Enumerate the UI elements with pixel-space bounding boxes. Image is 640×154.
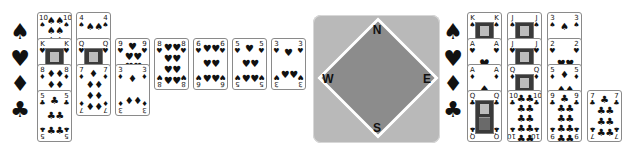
card-8-of-hearts[interactable]: 8 ♥8 ♥8 ♥8 ♥♥♥♥♥♥♥♥♥	[154, 38, 189, 90]
card-index: 7 ♣	[589, 125, 596, 139]
card-index: 9 ♣	[573, 125, 580, 139]
diamond-icon: ♦	[8, 72, 32, 96]
card-index: Q ♦	[533, 67, 540, 81]
card-index: 8 ♦	[63, 67, 70, 81]
card-5-of-hearts[interactable]: 5 ♥5 ♥5 ♥5 ♥♥♥♥♥♥	[232, 38, 267, 90]
face-card-image	[475, 100, 494, 134]
spade-icon: ♠	[441, 20, 465, 44]
card-index: 9 ♥	[141, 41, 148, 55]
card-index: 7 ♦	[78, 67, 85, 81]
card-index: 9 ♣	[549, 93, 556, 107]
card-pips: ♥♥♥♥♥	[241, 42, 258, 86]
card-index: 6 ♥	[219, 73, 226, 87]
club-icon: ♣	[441, 98, 465, 122]
compass-north-label: N	[370, 23, 384, 37]
card-index: 3 ♥	[273, 41, 280, 55]
card-index: 5 ♥	[234, 73, 241, 87]
card-index: 7 ♣	[589, 93, 596, 107]
card-pips: ♥♥♥♥♥♥♥♥	[163, 42, 180, 86]
card-5-of-clubs[interactable]: 5 ♣5 ♣5 ♣5 ♣♣♣♣♣♣	[37, 90, 72, 142]
card-index: 7 ♦	[102, 99, 109, 113]
card-index: 4 ♠	[78, 15, 85, 29]
card-index: 8 ♥	[180, 41, 187, 55]
diamond-icon: ♦	[441, 72, 465, 96]
card-index: 5 ♥	[234, 41, 241, 55]
card-index: 10 ♣	[509, 93, 516, 107]
card-index: 10 ♣	[509, 125, 516, 139]
card-pips: ♥♥♥♥♥♥	[202, 42, 219, 86]
card-index: 5 ♦	[573, 67, 580, 81]
card-Q-of-clubs[interactable]: Q ♣Q ♣Q ♣Q ♣	[467, 90, 502, 142]
card-index: 8 ♥	[156, 73, 163, 87]
spade-icon: ♠	[8, 20, 32, 44]
card-index: 3 ♠	[573, 15, 580, 29]
card-10-of-clubs[interactable]: 10 ♣10 ♣10 ♣10 ♣♣♣♣♣♣♣♣♣♣♣	[507, 90, 542, 142]
compass-east-label: E	[420, 72, 434, 86]
card-index: 2 ♥	[573, 41, 580, 55]
card-pips: ♦♦♦	[124, 68, 141, 112]
card-pips: ♥♥♥	[280, 42, 297, 86]
card-index: 7 ♦	[78, 99, 85, 113]
card-index: 3 ♠	[549, 15, 556, 29]
card-index: 7 ♣	[613, 125, 620, 139]
card-6-of-hearts[interactable]: 6 ♥6 ♥6 ♥6 ♥♥♥♥♥♥♥	[193, 38, 228, 90]
card-index: 9 ♣	[573, 93, 580, 107]
card-pips: ♣♣♣♣♣♣♣	[596, 94, 613, 138]
card-index: 3 ♦	[141, 67, 148, 81]
card-index: 4 ♠	[102, 15, 109, 29]
card-3-of-hearts[interactable]: 3 ♥3 ♥3 ♥3 ♥♥♥♥	[271, 38, 306, 90]
heart-icon: ♥	[441, 47, 465, 71]
card-pips: ♣♣♣♣♣	[46, 94, 63, 138]
card-index: 3 ♦	[141, 99, 148, 113]
card-index: 9 ♣	[549, 125, 556, 139]
card-index: 3 ♦	[117, 67, 124, 81]
card-index: K ♠	[493, 15, 500, 29]
card-index: A ♥	[469, 41, 476, 55]
card-index: 5 ♥	[258, 73, 265, 87]
card-index: 9 ♥	[117, 41, 124, 55]
card-index: 8 ♦	[39, 67, 46, 81]
card-index: K ♥	[63, 41, 70, 55]
card-index: 3 ♥	[297, 73, 304, 87]
card-7-of-diamonds[interactable]: 7 ♦7 ♦7 ♦7 ♦♦♦♦♦♦♦♦	[76, 64, 111, 116]
card-index: 6 ♥	[195, 73, 202, 87]
card-9-of-clubs[interactable]: 9 ♣9 ♣9 ♣9 ♣♣♣♣♣♣♣♣♣♣	[547, 90, 582, 142]
heart-icon: ♥	[8, 47, 32, 71]
card-index: 5 ♣	[63, 125, 70, 139]
card-index: Q ♥	[102, 41, 109, 55]
card-index: J ♠	[533, 15, 540, 29]
card-index: 8 ♥	[156, 41, 163, 55]
card-index: 6 ♥	[195, 41, 202, 55]
card-index: 2 ♥	[549, 41, 556, 55]
card-pips: ♦♦♦♦♦♦♦	[85, 68, 102, 112]
card-index: Q ♣	[493, 125, 500, 139]
card-index: 3 ♥	[273, 73, 280, 87]
card-index: 7 ♦	[102, 67, 109, 81]
card-index: 7 ♣	[613, 93, 620, 107]
card-index: 3 ♥	[297, 41, 304, 55]
card-index: A ♦	[469, 67, 476, 81]
card-index: 8 ♥	[180, 73, 187, 87]
card-index: 10 ♠	[39, 15, 46, 29]
card-index: 10 ♣	[533, 125, 540, 139]
card-3-of-diamonds[interactable]: 3 ♦3 ♦3 ♦3 ♦♦♦♦	[115, 64, 150, 116]
card-index: 5 ♣	[63, 93, 70, 107]
card-index: 5 ♣	[39, 93, 46, 107]
card-index: 10 ♣	[533, 93, 540, 107]
card-index: 3 ♦	[117, 99, 124, 113]
card-index: 6 ♥	[219, 41, 226, 55]
card-pips: ♣♣♣♣♣♣♣♣♣	[556, 94, 573, 138]
card-index: 5 ♦	[549, 67, 556, 81]
card-7-of-clubs[interactable]: 7 ♣7 ♣7 ♣7 ♣♣♣♣♣♣♣♣	[587, 90, 622, 142]
card-pips: ♣♣♣♣♣♣♣♣♣♣	[516, 94, 533, 138]
card-index: A ♥	[493, 41, 500, 55]
compass-south-label: S	[370, 121, 384, 135]
card-index: Q ♣	[493, 93, 500, 107]
club-icon: ♣	[8, 98, 32, 122]
compass-west-label: W	[321, 72, 335, 86]
card-index: 5 ♣	[39, 125, 46, 139]
card-index: 10 ♠	[63, 15, 70, 29]
card-index: 5 ♥	[258, 41, 265, 55]
card-index: J ♥	[533, 41, 540, 55]
card-index: A ♦	[493, 67, 500, 81]
